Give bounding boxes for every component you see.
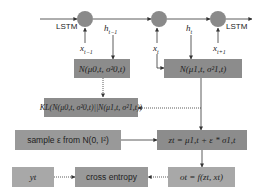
x-prev-label: xt−1 [80, 43, 93, 55]
posterior-box: N(μ1,t, σ²1,t) [164, 59, 242, 78]
lstm-label-left: LSTM [56, 22, 77, 31]
prior-box: N(μ0,t, σ²0,t) [74, 59, 130, 78]
h-cur-label: ht [186, 23, 192, 35]
x-cur-label: xt [153, 43, 159, 55]
lstm-node-cur [151, 11, 167, 27]
cross-entropy-box: cross entropy [75, 167, 148, 187]
x-cur-to-posterior-arrow [157, 54, 164, 68]
h-prev-label: ht−1 [104, 23, 117, 35]
output-box: ot = f(zt, xt) [168, 167, 235, 187]
lstm-label-right: LSTM [226, 22, 247, 31]
sample-box: sample ε from N(0, I²) [15, 130, 121, 150]
z-box: zt = μ1,t + ε * σ1,t [157, 130, 247, 150]
lstm-node-next [210, 11, 226, 27]
lstm-node-prev [77, 11, 93, 27]
kl-box: KL(N(μ0,t, σ²0,t)||N(μ1,t, σ²1,t)) [44, 98, 138, 117]
vae-lstm-diagram: LSTM LSTM ht−1 ht xt−1 xt xt+1 N(μ0,t, σ… [0, 0, 262, 196]
x-next-label: xt+1 [213, 43, 226, 55]
y-box: yt [12, 167, 54, 187]
